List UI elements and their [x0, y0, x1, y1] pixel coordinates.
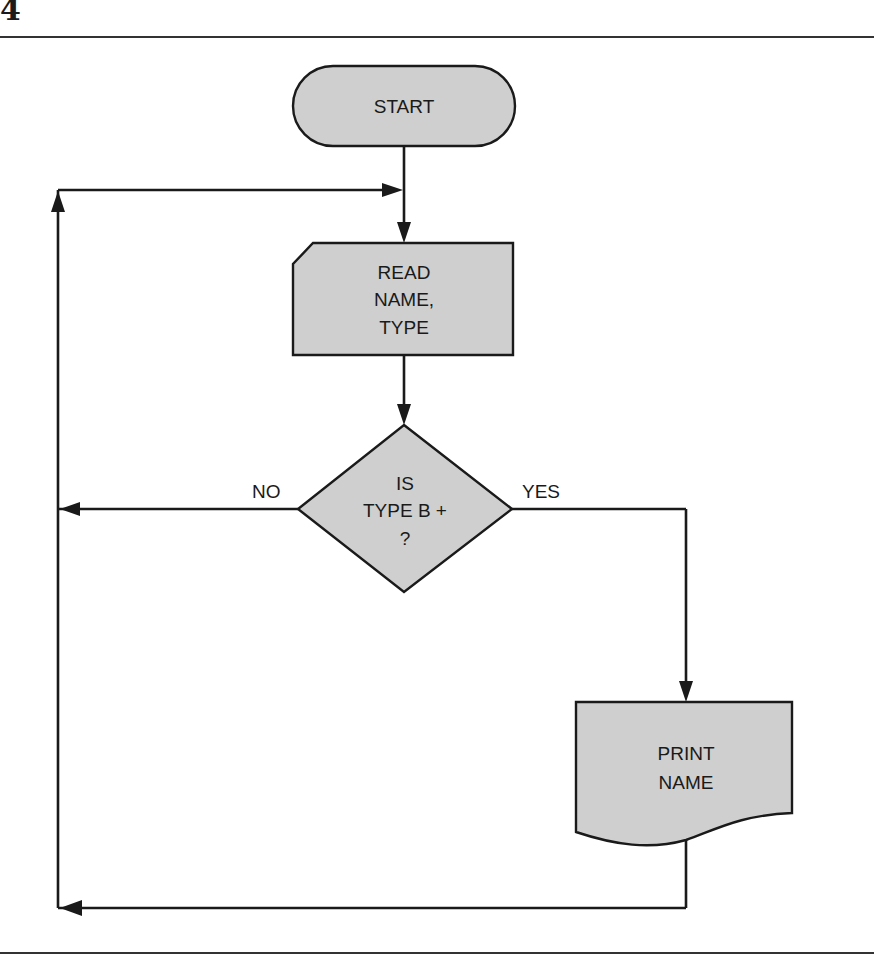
arrow-down-icon [397, 404, 411, 425]
read-label-line-1: READ [378, 262, 431, 283]
yes-label: YES [522, 481, 560, 502]
print-label-line-1: PRINT [658, 743, 715, 764]
read-label-line-2: NAME, [374, 289, 434, 310]
print-document: PRINT NAME [576, 702, 792, 845]
arrow-down-icon [397, 222, 411, 243]
start-terminal: START [293, 66, 515, 146]
read-label-line-3: TYPE [379, 317, 429, 338]
arrow-up-icon [51, 191, 65, 212]
decision-label-line-3: ? [400, 528, 411, 549]
no-label: NO [252, 481, 281, 502]
read-input-card: READ NAME, TYPE [293, 243, 513, 355]
print-label-line-2: NAME [659, 772, 714, 793]
arrow-right-icon [382, 183, 403, 197]
arrow-left-icon [60, 502, 80, 516]
arrow-left-icon [60, 900, 82, 916]
decision-label-line-1: IS [396, 473, 414, 494]
flowchart-diagram: START READ NAME, TYPE IS TYPE B + ? NO Y… [0, 0, 874, 965]
start-label: START [374, 96, 435, 117]
decision-label-line-2: TYPE B + [363, 500, 447, 521]
arrow-down-icon [679, 681, 693, 702]
decision-diamond: IS TYPE B + ? [298, 425, 512, 592]
